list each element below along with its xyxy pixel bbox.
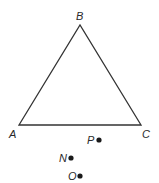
- vertex-label-c: C: [142, 128, 150, 140]
- vertex-label-a: A: [8, 128, 16, 140]
- point-p-dot: [96, 137, 101, 142]
- vertex-label-b: B: [76, 10, 83, 22]
- triangle-abc: [19, 25, 141, 125]
- point-label-n: N: [59, 152, 67, 164]
- geometry-diagram: A B C P N O: [0, 0, 159, 183]
- point-label-p: P: [87, 134, 95, 146]
- point-label-o: O: [68, 170, 77, 182]
- point-o-dot: [77, 173, 82, 178]
- point-n-dot: [68, 155, 73, 160]
